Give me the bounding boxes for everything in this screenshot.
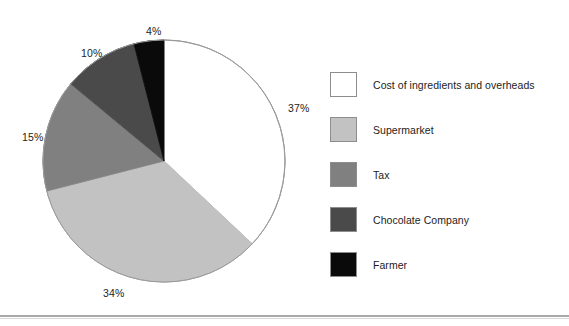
legend-item-tax: Tax [330, 152, 566, 197]
legend-item-label: Tax [373, 169, 390, 181]
footer-divider [0, 315, 569, 317]
legend-swatch-icon [330, 252, 357, 277]
pie-percent-label: 10% [81, 47, 102, 59]
pie-chart-svg [0, 12, 320, 304]
legend-item-label: Cost of ingredients and overheads [373, 79, 535, 91]
legend-item-chocolate-company: Chocolate Company [330, 197, 566, 242]
chart-legend: Cost of ingredients and overheads Superm… [330, 62, 566, 287]
legend-item-label: Supermarket [373, 124, 434, 136]
pie-chart [0, 12, 320, 304]
legend-swatch-icon [330, 162, 357, 187]
legend-item-farmer: Farmer [330, 242, 566, 287]
footer-divider-shadow [0, 318, 569, 319]
legend-item-label: Chocolate Company [373, 214, 469, 226]
legend-item-label: Farmer [373, 259, 407, 271]
pie-percent-label: 4% [146, 25, 161, 37]
legend-swatch-icon [330, 72, 357, 97]
pie-percent-label: 15% [22, 131, 43, 143]
pie-percent-label: 34% [103, 287, 124, 299]
legend-item-cost-of-ingredients-and-overheads: Cost of ingredients and overheads [330, 62, 566, 107]
cropped-title-strip [0, 0, 569, 6]
legend-swatch-icon [330, 117, 357, 142]
legend-item-supermarket: Supermarket [330, 107, 566, 152]
pie-percent-label: 37% [288, 102, 309, 114]
legend-swatch-icon [330, 207, 357, 232]
